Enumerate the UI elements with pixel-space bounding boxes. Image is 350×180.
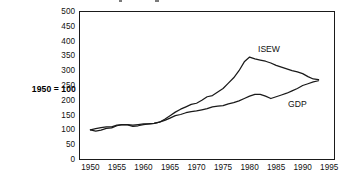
chart-figure: 1950 = 100 05010015020025030035040045050… xyxy=(0,0,350,180)
y-tick-label: 200 xyxy=(49,96,75,105)
series-label-isew: ISEW xyxy=(258,44,280,54)
plot-area xyxy=(79,11,335,160)
caption-fragment xyxy=(119,0,122,2)
y-tick-label: 300 xyxy=(49,66,75,75)
x-axis-tick-labels: 1950195519601965197019751980198519901995 xyxy=(0,163,350,177)
y-tick-label: 450 xyxy=(49,22,75,31)
y-tick-label: 250 xyxy=(49,81,75,90)
x-tick-label: 1995 xyxy=(313,163,345,172)
y-tick-label: 150 xyxy=(49,111,75,120)
y-axis-tick-labels: 050100150200250300350400450500 xyxy=(49,0,75,180)
series-label-gdp: GDP xyxy=(288,99,307,109)
y-tick-label: 50 xyxy=(49,140,75,149)
y-tick-label: 500 xyxy=(49,7,75,16)
y-tick-label: 400 xyxy=(49,37,75,46)
y-tick-label: 100 xyxy=(49,125,75,134)
caption-fragment xyxy=(155,0,159,2)
y-tick-label: 350 xyxy=(49,51,75,60)
